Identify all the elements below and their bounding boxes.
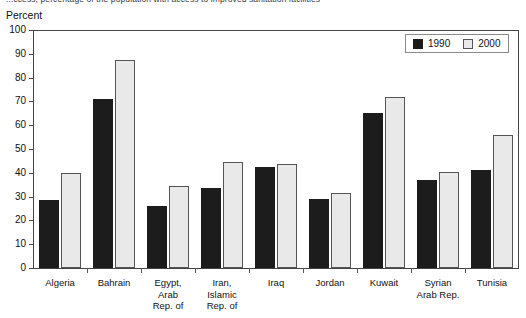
legend-label-1990: 1990 (428, 38, 450, 49)
x-axis-label-line: Tunisia (465, 277, 519, 289)
x-axis-label-line: Rep. of (141, 300, 195, 312)
x-axis-label-line: Bahrain (87, 277, 141, 289)
bar-group (195, 30, 249, 268)
cutoff-caption: ...ccess, percentage of the population w… (0, 0, 526, 6)
x-axis-label: Iran,IslamicRep. of (195, 277, 249, 312)
x-separator (411, 268, 412, 273)
bar-2000[interactable] (169, 186, 190, 268)
chart-page: ...ccess, percentage of the population w… (0, 0, 526, 318)
bar-1990[interactable] (471, 170, 492, 268)
y-tick-label-100: 100 (0, 25, 26, 35)
bar-1990[interactable] (147, 206, 168, 268)
y-tick-label-10: 10 (0, 239, 26, 249)
x-separator (249, 268, 250, 273)
legend-item-1990[interactable]: 1990 (413, 38, 450, 49)
bar-group (33, 30, 87, 268)
bar-2000[interactable] (439, 172, 460, 268)
x-axis-label: Algeria (33, 277, 87, 289)
x-axis-label-line: Arab Rep. (411, 289, 465, 301)
x-axis-label: Bahrain (87, 277, 141, 289)
x-axis-label-line: Rep. of (195, 300, 249, 312)
bar-2000[interactable] (331, 193, 352, 268)
legend-swatch-1990-icon (413, 39, 423, 49)
plot-frame-bottom (33, 268, 519, 269)
y-tick-label-70: 70 (0, 96, 26, 106)
bar-1990[interactable] (201, 188, 222, 268)
y-tick-label-0: 0 (0, 263, 26, 273)
x-axis-label: Jordan (303, 277, 357, 289)
bar-2000[interactable] (61, 173, 82, 268)
bar-group (87, 30, 141, 268)
bar-1990[interactable] (255, 167, 276, 268)
y-tick-0 (29, 268, 33, 269)
y-tick-label-90: 90 (0, 49, 26, 59)
y-tick-label-60: 60 (0, 120, 26, 130)
y-tick-label-30: 30 (0, 192, 26, 202)
x-axis-label-line: Jordan (303, 277, 357, 289)
x-axis-label: SyrianArab Rep. (411, 277, 465, 300)
x-axis-label-line: Kuwait (357, 277, 411, 289)
x-separator (303, 268, 304, 273)
x-separator (195, 268, 196, 273)
bar-1990[interactable] (417, 180, 438, 268)
bar-group (141, 30, 195, 268)
x-axis-label-line: Iraq (249, 277, 303, 289)
bar-group (357, 30, 411, 268)
y-tick-label-50: 50 (0, 144, 26, 154)
caption-text: ...ccess, percentage of the population w… (6, 0, 320, 4)
y-tick-label-80: 80 (0, 73, 26, 83)
bar-1990[interactable] (309, 199, 330, 268)
x-axis-label-line: Egypt, (141, 277, 195, 289)
x-axis-label: Iraq (249, 277, 303, 289)
bar-2000[interactable] (493, 135, 514, 268)
x-separator (357, 268, 358, 273)
bar-2000[interactable] (223, 162, 244, 268)
x-axis-label-line: Islamic (195, 289, 249, 301)
y-tick-label-20: 20 (0, 215, 26, 225)
x-separator (141, 268, 142, 273)
bar-group (249, 30, 303, 268)
bar-group (303, 30, 357, 268)
bar-2000[interactable] (115, 60, 136, 268)
bar-group (411, 30, 465, 268)
legend-swatch-2000-icon (463, 39, 473, 49)
plot-area (33, 30, 519, 268)
legend-label-2000: 2000 (478, 38, 500, 49)
bar-2000[interactable] (277, 164, 298, 268)
x-axis-label: Egypt,ArabRep. of (141, 277, 195, 312)
bar-1990[interactable] (39, 200, 60, 268)
y-axis-title: Percent (6, 9, 42, 21)
x-separator (465, 268, 466, 273)
x-axis-label: Tunisia (465, 277, 519, 289)
x-axis-label-line: Arab (141, 289, 195, 301)
x-axis-label-line: Syrian (411, 277, 465, 289)
legend-item-2000[interactable]: 2000 (463, 38, 500, 49)
x-separator (87, 268, 88, 273)
x-axis-label-line: Algeria (33, 277, 87, 289)
chart-legend: 1990 2000 (405, 34, 509, 53)
x-axis-label-line: Iran, (195, 277, 249, 289)
bar-group (465, 30, 519, 268)
bar-2000[interactable] (385, 97, 406, 268)
bar-1990[interactable] (93, 99, 114, 268)
bar-1990[interactable] (363, 113, 384, 268)
y-tick-label-40: 40 (0, 168, 26, 178)
x-axis-label: Kuwait (357, 277, 411, 289)
